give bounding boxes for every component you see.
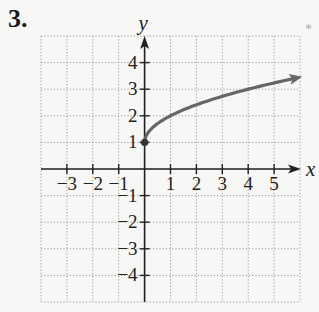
y-tick-label: −4 bbox=[117, 264, 138, 285]
x-tick-label: 3 bbox=[218, 173, 228, 194]
x-tick-label: −3 bbox=[57, 173, 77, 194]
x-tick-label: −2 bbox=[83, 173, 103, 194]
y-tick-label: −1 bbox=[117, 185, 137, 206]
y-tick-label: 4 bbox=[128, 52, 138, 73]
y-tick-label: 2 bbox=[128, 105, 138, 126]
y-tick-label: 3 bbox=[128, 78, 138, 99]
y-tick-label: −2 bbox=[117, 211, 137, 232]
start-point-dot bbox=[141, 139, 148, 146]
x-tick-label: 2 bbox=[192, 173, 202, 194]
function-curve bbox=[141, 74, 302, 146]
x-tick-label: 5 bbox=[269, 173, 279, 194]
x-axis-label: x bbox=[305, 157, 316, 181]
y-tick-label: −3 bbox=[117, 238, 137, 259]
x-tick-label: 1 bbox=[166, 173, 176, 194]
y-axis-label: y bbox=[137, 11, 149, 35]
y-tick-label: 1 bbox=[128, 131, 138, 152]
axes: xy bbox=[41, 11, 316, 302]
x-tick-label: 4 bbox=[243, 173, 253, 194]
graph: xy −3−2−1123454321−1−2−3−4 bbox=[0, 0, 319, 312]
